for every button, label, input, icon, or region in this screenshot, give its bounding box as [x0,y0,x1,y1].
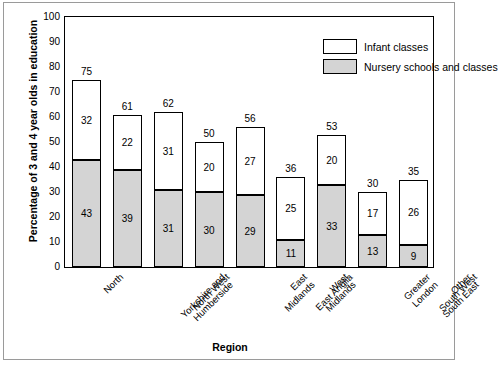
y-axis-ticks: 0102030405060708090100 [34,16,60,268]
bar-segment-nursery-value: 39 [114,214,141,224]
y-tick-label: 20 [36,212,60,222]
bar-segment-infant: 31 [154,112,183,190]
legend-swatch-nursery-icon [323,59,357,74]
bar-segment-nursery: 11 [276,240,305,268]
bar-segment-infant-value: 20 [318,156,345,166]
bar-segment-infant: 25 [276,177,305,240]
bar-1: 4332 [72,80,101,268]
bar-segment-nursery: 39 [113,170,142,268]
bar-segment-nursery-value: 9 [400,252,427,262]
bar-segment-nursery: 29 [236,195,265,268]
bar-total-value: 30 [358,179,387,189]
bar-4: 3020 [195,142,224,267]
bar-segment-nursery-value: 33 [318,222,345,232]
bar-segment-infant-value: 26 [400,208,427,218]
legend-swatch-infant-icon [323,39,357,54]
bar-segment-infant-value: 20 [196,163,223,173]
bar-total-value: 62 [154,99,183,109]
bar-segment-infant-value: 22 [114,138,141,148]
bar-segment-nursery-value: 31 [155,224,182,234]
bar-segment-nursery: 13 [358,235,387,268]
bar-segment-infant-value: 32 [73,116,100,126]
legend: Infant classes Nursery schools and class… [323,39,498,79]
y-tick-label: 0 [36,262,60,272]
y-tick-label: 50 [36,137,60,147]
bar-segment-infant: 27 [236,127,265,195]
y-tick-label: 60 [36,112,60,122]
bar-segment-infant-value: 25 [277,204,304,214]
legend-item-infant: Infant classes [323,39,498,54]
bar-total-value: 75 [72,67,101,77]
bar-segment-nursery: 31 [154,190,183,268]
y-tick-label: 10 [36,237,60,247]
y-tick-label: 100 [36,12,60,22]
bar-segment-infant: 32 [72,80,101,160]
y-tick-label: 90 [36,37,60,47]
bar-8: 1317 [358,192,387,267]
bar-segment-nursery-value: 11 [277,249,304,259]
bar-segment-nursery: 30 [195,192,224,267]
bar-segment-nursery-value: 30 [196,226,223,236]
bar-segment-nursery: 9 [399,245,428,268]
bar-segment-nursery: 43 [72,160,101,268]
bar-segment-infant: 20 [195,142,224,192]
legend-label-infant: Infant classes [364,41,428,53]
bar-segment-infant: 17 [358,192,387,235]
legend-item-nursery: Nursery schools and classes [323,59,498,74]
bar-total-value: 61 [113,102,142,112]
bar-segment-infant-value: 27 [237,157,264,167]
bar-segment-nursery-value: 13 [359,247,386,257]
bar-segment-nursery: 33 [317,185,346,268]
bar-segment-nursery-value: 29 [237,227,264,237]
bar-total-value: 50 [195,129,224,139]
bar-total-value: 36 [276,164,305,174]
bar-segment-infant: 26 [399,180,428,245]
bar-3: 3131 [154,112,183,267]
y-tick-label: 80 [36,62,60,72]
bar-segment-infant-value: 31 [155,147,182,157]
bar-total-value: 35 [399,167,428,177]
x-tick-label: North [102,272,126,296]
x-axis-labels: NorthYorkshire andHumbersideNorth WestEa… [64,270,434,340]
y-tick-label: 40 [36,162,60,172]
bar-segment-infant: 20 [317,135,346,185]
bar-7: 3320 [317,135,346,268]
legend-label-nursery: Nursery schools and classes [364,61,498,73]
y-tick-label: 70 [36,87,60,97]
bar-6: 1125 [276,177,305,267]
bar-segment-infant-value: 17 [359,209,386,219]
y-tick-label: 30 [36,187,60,197]
bar-segment-infant: 22 [113,115,142,170]
bar-9: 926 [399,180,428,268]
bar-2: 3922 [113,115,142,268]
bar-total-value: 53 [317,122,346,132]
bar-5: 2927 [236,127,265,267]
x-axis-title: Region [0,341,460,353]
bar-total-value: 56 [236,114,265,124]
bar-segment-nursery-value: 43 [73,209,100,219]
plot-area: 7543326139226231315030205629273611255333… [64,16,434,268]
